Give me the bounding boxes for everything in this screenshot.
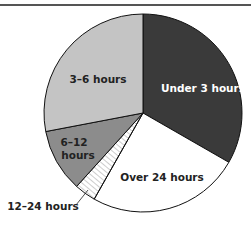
leader-line-12-24: [76, 190, 88, 205]
label-over-24-hours: Over 24 hours: [120, 171, 204, 183]
pie-chart: Under 3 hours Over 24 hours 3–6 hours 6–…: [0, 0, 251, 225]
label-12-24-hours: 12–24 hours: [7, 200, 79, 212]
label-6-12-hours-line1: 6–12: [60, 136, 87, 148]
label-6-12-hours-line2: hours: [61, 149, 95, 161]
label-3-6-hours: 3–6 hours: [69, 73, 126, 85]
label-under-3-hours: Under 3 hours: [161, 82, 245, 94]
